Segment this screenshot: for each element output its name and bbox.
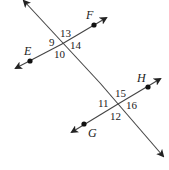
angle-14-label: 14 <box>70 39 82 51</box>
angle-10-label: 10 <box>54 48 66 60</box>
point-f-label: F <box>85 8 94 22</box>
point-e-dot <box>27 58 32 63</box>
angle-11-label: 11 <box>98 97 109 109</box>
point-h-dot <box>145 84 150 89</box>
geometry-diagram: E F G H 9 13 14 10 11 15 16 12 <box>0 0 169 170</box>
angle-15-label: 15 <box>115 87 127 99</box>
angle-16-label: 16 <box>126 99 138 111</box>
angle-9-label: 9 <box>49 36 55 48</box>
point-g-label: G <box>88 126 97 140</box>
point-g-dot <box>81 121 86 126</box>
point-h-label: H <box>136 71 147 85</box>
point-f-dot <box>91 22 96 27</box>
point-e-label: E <box>23 44 32 58</box>
diagram-svg: E F G H 9 13 14 10 11 15 16 12 <box>0 0 169 170</box>
angle-12-label: 12 <box>110 110 121 122</box>
angle-13-label: 13 <box>60 27 72 39</box>
